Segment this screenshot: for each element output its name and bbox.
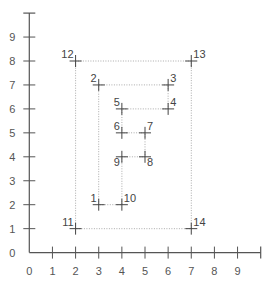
point-label: 1 xyxy=(91,192,97,204)
x-tick-label: 1 xyxy=(49,265,55,277)
data-points: 1234567891011121314 xyxy=(61,48,205,235)
point-label: 6 xyxy=(114,120,120,132)
point-10: 10 xyxy=(116,192,136,211)
axes: 01234567890123456789 xyxy=(9,13,261,277)
point-7: 7 xyxy=(139,120,153,139)
scatter-chart: 01234567890123456789 1234567891011121314 xyxy=(0,0,271,281)
point-12: 12 xyxy=(61,48,81,67)
point-label: 8 xyxy=(147,156,153,168)
y-tick-label: 4 xyxy=(9,151,15,163)
point-4: 4 xyxy=(162,96,176,115)
point-label: 11 xyxy=(62,216,73,228)
y-tick-label: 2 xyxy=(9,199,15,211)
point-label: 12 xyxy=(61,48,73,60)
point-6: 6 xyxy=(114,120,128,139)
y-tick-label: 8 xyxy=(9,55,15,67)
y-tick-label: 9 xyxy=(9,31,15,43)
point-label: 3 xyxy=(170,72,176,84)
x-tick-label: 3 xyxy=(96,265,102,277)
x-tick-label: 8 xyxy=(211,265,217,277)
point-label: 7 xyxy=(147,120,153,132)
point-11: 11 xyxy=(62,216,81,235)
y-tick-label: 1 xyxy=(9,223,15,235)
point-label: 2 xyxy=(91,72,97,84)
x-tick-label: 0 xyxy=(26,265,32,277)
point-14: 14 xyxy=(185,216,205,235)
point-label: 10 xyxy=(124,192,136,204)
point-label: 4 xyxy=(170,96,176,108)
point-3: 3 xyxy=(162,72,176,91)
x-tick-label: 4 xyxy=(119,265,125,277)
x-tick-label: 7 xyxy=(188,265,194,277)
x-tick-label: 9 xyxy=(234,265,240,277)
point-label: 5 xyxy=(114,96,120,108)
x-tick-label: 5 xyxy=(142,265,148,277)
point-5: 5 xyxy=(114,96,128,115)
point-9: 9 xyxy=(114,151,128,168)
y-tick-label: 3 xyxy=(9,175,15,187)
point-8: 8 xyxy=(139,151,153,168)
y-tick-label: 6 xyxy=(9,103,15,115)
point-13: 13 xyxy=(185,48,205,67)
y-tick-label: 5 xyxy=(9,127,15,139)
point-label: 14 xyxy=(193,216,205,228)
x-tick-label: 2 xyxy=(73,265,79,277)
point-label: 9 xyxy=(114,156,120,168)
point-2: 2 xyxy=(91,72,105,91)
x-tick-label: 6 xyxy=(165,265,171,277)
y-tick-label: 0 xyxy=(9,247,15,259)
inner-F-outline-line xyxy=(99,85,168,205)
point-1: 1 xyxy=(91,192,105,211)
y-tick-label: 7 xyxy=(9,79,15,91)
point-label: 13 xyxy=(193,48,205,60)
